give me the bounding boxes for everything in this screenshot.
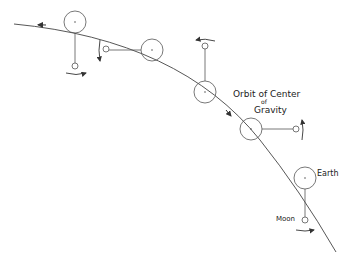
earth-moon-position-4 <box>240 118 303 140</box>
orbit-label-line2: of <box>261 98 268 105</box>
orbit-direction-arrow-mid <box>226 110 231 116</box>
moon-label: Moon <box>276 215 295 223</box>
moon-motion-arrow <box>99 40 100 61</box>
orbit-label-line3: Gravity <box>254 105 288 115</box>
moon-circle <box>293 126 299 132</box>
moon-motion-arrow <box>302 120 303 140</box>
earth-moon-barycenter-diagram: Orbit of Center of Gravity Earth Moon <box>0 0 352 257</box>
earth-moon-position-5 <box>294 167 316 231</box>
moon-circle <box>202 43 208 49</box>
moon-circle <box>302 217 308 223</box>
earth-moon-position-1 <box>64 11 86 75</box>
moon-circle <box>103 46 109 52</box>
moon-motion-arrow <box>66 73 86 75</box>
earth-label: Earth <box>317 169 338 178</box>
moon-circle <box>72 63 78 69</box>
moon-motion-arrow <box>296 230 314 231</box>
moon-motion-arrow <box>196 39 215 41</box>
